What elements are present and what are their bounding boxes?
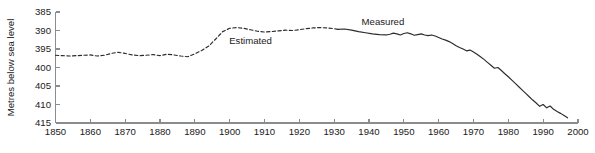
x-tick-label: 1980	[498, 126, 519, 137]
x-tick-label: 1910	[254, 126, 275, 137]
x-axis-ticks: 1850186018701880189019001910192019301940…	[45, 119, 589, 137]
line-chart: 385390395400405410415 185018601870188018…	[0, 0, 595, 153]
annotation-measured: Measured	[362, 16, 405, 27]
x-tick-label: 2000	[567, 126, 588, 137]
x-tick-label: 1960	[428, 126, 449, 137]
chart-figure: 385390395400405410415 185018601870188018…	[0, 0, 595, 153]
y-tick-label: 410	[35, 99, 51, 110]
x-tick-label: 1990	[532, 126, 553, 137]
x-tick-label: 1850	[45, 126, 66, 137]
chart-series	[56, 28, 568, 118]
x-tick-label: 1880	[149, 126, 170, 137]
series-line-measured	[338, 29, 568, 118]
series-line-estimated	[56, 28, 338, 57]
x-tick-label: 1920	[289, 126, 310, 137]
y-tick-label: 385	[35, 6, 51, 17]
y-tick-label: 390	[35, 25, 51, 36]
y-tick-label: 405	[35, 80, 51, 91]
y-axis-ticks: 385390395400405410415	[35, 6, 60, 128]
y-axis-title: Metres below sea level	[5, 19, 16, 117]
x-tick-label: 1950	[393, 126, 414, 137]
x-tick-label: 1890	[184, 126, 205, 137]
x-tick-label: 1930	[323, 126, 344, 137]
x-tick-label: 1940	[358, 126, 379, 137]
x-tick-label: 1900	[219, 126, 240, 137]
annotation-estimated: Estimated	[229, 35, 272, 46]
y-tick-label: 395	[35, 43, 51, 54]
x-tick-label: 1970	[463, 126, 484, 137]
x-tick-label: 1870	[114, 126, 135, 137]
y-tick-label: 400	[35, 62, 51, 73]
x-tick-label: 1860	[80, 126, 101, 137]
